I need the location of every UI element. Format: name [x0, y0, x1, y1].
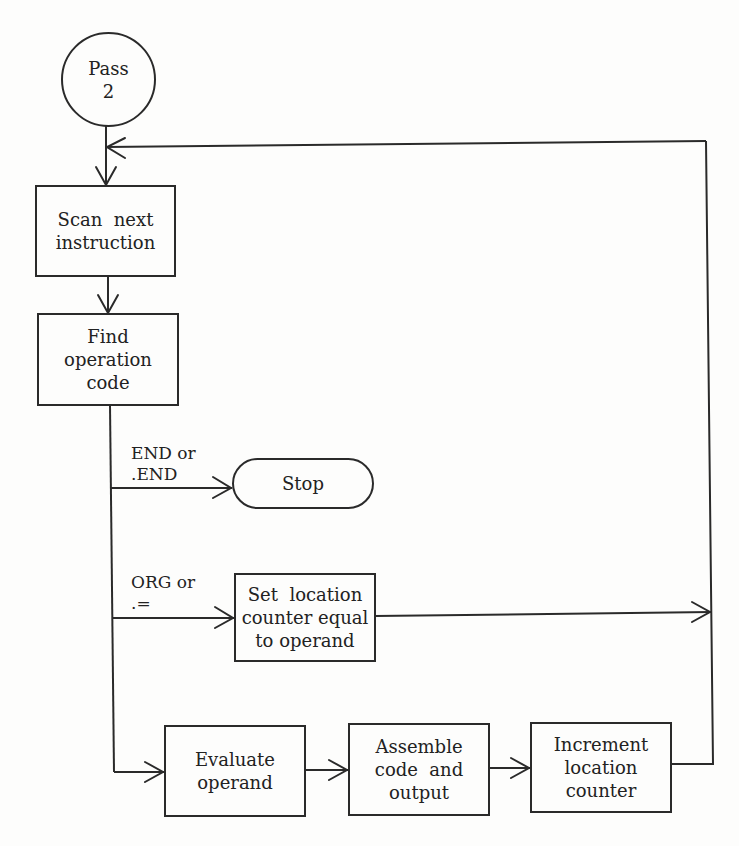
node-text: location: [565, 756, 638, 779]
terminal-stop: Stop: [232, 458, 374, 509]
edge-find-spine: [110, 405, 114, 772]
node-text: Increment: [554, 733, 649, 756]
edge-set-location-to-loop: [375, 612, 711, 616]
node-text: Set location: [248, 583, 363, 606]
node-text: to operand: [255, 629, 354, 652]
node-text: operation: [64, 348, 152, 371]
arrowhead-left-icon: [107, 138, 125, 158]
process-set-location-counter: Set location counter equal to operand: [234, 573, 376, 662]
node-text: Assemble: [375, 735, 462, 758]
label-text: ORG or: [131, 572, 195, 593]
node-text: Scan next: [58, 208, 154, 231]
process-find-operation-code: Find operation code: [37, 313, 179, 406]
branch-label-end: END or .END: [131, 443, 196, 485]
node-text: code and: [375, 758, 463, 781]
node-text: counter: [566, 779, 637, 802]
label-text: .END: [131, 464, 196, 485]
start-node-pass-2: Pass 2: [61, 32, 156, 127]
process-evaluate-operand: Evaluate operand: [164, 725, 306, 817]
node-text: counter equal: [242, 606, 369, 629]
node-text: Pass: [88, 57, 129, 80]
node-text: Evaluate: [195, 748, 275, 771]
label-text: END or: [131, 443, 196, 464]
branch-label-org: ORG or .=: [131, 572, 195, 614]
node-text: instruction: [56, 231, 156, 254]
node-text: Find: [87, 325, 128, 348]
node-text: operand: [197, 771, 272, 794]
edge-loop-top: [106, 141, 706, 147]
label-text: .=: [131, 593, 195, 614]
node-text: 2: [103, 80, 114, 103]
process-assemble-code-output: Assemble code and output: [348, 723, 490, 816]
node-text: output: [389, 781, 449, 804]
node-text: Stop: [282, 472, 324, 495]
process-increment-location-counter: Increment location counter: [530, 722, 672, 813]
process-scan-next-instruction: Scan next instruction: [35, 185, 176, 277]
node-text: code: [86, 371, 129, 394]
edge-increment-loop-back: [671, 141, 713, 764]
